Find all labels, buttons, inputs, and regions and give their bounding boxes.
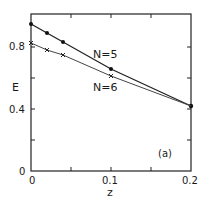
x-tick-1: 0.1 — [102, 175, 118, 186]
panel-label: (a) — [158, 148, 172, 159]
chart: N=5 N=6 (a) E z 0 0.1 0.2 0 0.4 0.8 — [0, 0, 207, 205]
x-axis-label: z — [107, 186, 113, 199]
legend-n5: N=5 — [93, 48, 117, 61]
y-tick-0: 0 — [19, 166, 25, 177]
x-tick-0: 0 — [29, 175, 35, 186]
y-axis-label: E — [12, 81, 19, 94]
x-tick-2: 0.2 — [182, 175, 198, 186]
y-tick-2: 0.8 — [9, 41, 25, 52]
legend-n6: N=6 — [93, 81, 117, 94]
y-tick-1: 0.4 — [9, 104, 25, 115]
